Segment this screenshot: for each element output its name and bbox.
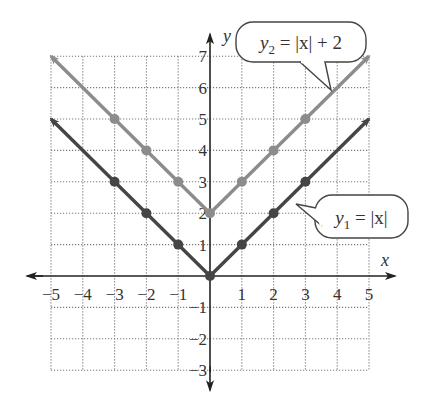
x-axis-label: x xyxy=(380,250,389,270)
data-point xyxy=(205,271,215,281)
x-tick-label: −5 xyxy=(42,285,60,304)
data-point xyxy=(237,240,247,250)
line-left xyxy=(51,119,210,276)
x-tick-label: 3 xyxy=(301,285,310,304)
callout-pointer xyxy=(300,62,331,90)
data-point xyxy=(300,114,310,124)
y-tick-label: −1 xyxy=(189,298,207,317)
callout-y1: y1 = |x| xyxy=(296,195,408,238)
y-tick-label: 1 xyxy=(199,236,208,255)
x-tick-label: −1 xyxy=(169,285,187,304)
data-point xyxy=(205,208,215,218)
y-axis-label: y xyxy=(221,26,231,46)
line-right xyxy=(210,56,369,213)
data-point xyxy=(300,177,310,187)
y-tick-label: 3 xyxy=(199,173,208,192)
x-tick-label: 1 xyxy=(238,285,247,304)
y-tick-label: 4 xyxy=(199,141,208,160)
data-point xyxy=(141,145,151,155)
x-tick-label: 4 xyxy=(333,285,342,304)
callouts: y2 = |x| + 2y1 = |x| xyxy=(236,22,408,238)
x-tick-label: 5 xyxy=(365,285,374,304)
data-point xyxy=(269,208,279,218)
absolute-value-chart: xy −5−4−3−2−112345−3−2−11234567 y2 = |x|… xyxy=(0,0,426,401)
x-tick-label: −4 xyxy=(74,285,93,304)
data-point xyxy=(173,240,183,250)
data-point xyxy=(173,177,183,187)
y-tick-label: −2 xyxy=(189,330,207,349)
y-tick-label: 6 xyxy=(199,79,208,98)
data-point xyxy=(110,177,120,187)
data-point xyxy=(141,208,151,218)
y-tick-label: −3 xyxy=(189,361,207,380)
data-point xyxy=(110,114,120,124)
data-point xyxy=(237,177,247,187)
line-left xyxy=(51,56,210,213)
x-tick-label: −3 xyxy=(106,285,124,304)
x-tick-label: −2 xyxy=(137,285,155,304)
y-tick-label: 7 xyxy=(199,47,208,66)
y-tick-label: 5 xyxy=(199,110,208,129)
x-tick-label: 2 xyxy=(269,285,278,304)
data-point xyxy=(269,145,279,155)
